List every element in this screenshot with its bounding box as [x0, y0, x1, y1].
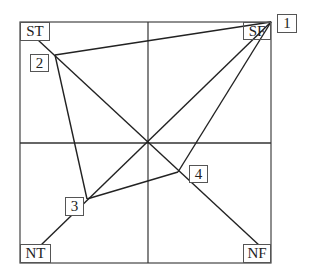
- segment-1-2: [55, 22, 271, 55]
- segment-4-1: [178, 22, 271, 172]
- point-label-3: 3: [65, 197, 84, 216]
- corner-label-st: ST: [20, 22, 50, 41]
- diagram-canvas: [0, 0, 310, 278]
- corner-label-nf: NF: [243, 244, 271, 263]
- corner-label-nt: NT: [20, 244, 51, 263]
- corner-label-sf: SF: [243, 22, 271, 40]
- point-label-1: 1: [277, 14, 297, 33]
- point-label-4: 4: [189, 165, 208, 183]
- segment-3-4: [87, 172, 178, 199]
- point-label-2: 2: [30, 54, 49, 72]
- segment-2-3: [55, 55, 87, 199]
